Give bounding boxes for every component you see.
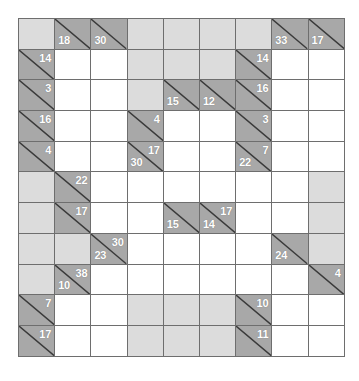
entry-cell[interactable] (55, 142, 91, 173)
blank-cell (164, 326, 200, 357)
entry-cell[interactable] (200, 111, 236, 142)
entry-cell[interactable] (309, 111, 345, 142)
entry-cell[interactable] (164, 265, 200, 296)
entry-cell[interactable] (55, 80, 91, 111)
across-clue-number: 22 (76, 175, 88, 186)
across-clue-number: 17 (39, 329, 51, 340)
clue-cell: 4 (19, 142, 55, 173)
entry-cell[interactable] (236, 234, 272, 265)
entry-cell[interactable] (128, 265, 164, 296)
blank-cell (19, 234, 55, 265)
across-clue-number: 10 (256, 298, 268, 309)
across-clue-number: 17 (148, 145, 160, 156)
entry-cell[interactable] (91, 295, 127, 326)
down-clue-number: 12 (203, 96, 215, 107)
across-clue-number: 16 (256, 83, 268, 94)
across-clue-number: 11 (257, 329, 268, 340)
entry-cell[interactable] (128, 203, 164, 234)
across-clue-number: 14 (39, 53, 51, 64)
clue-cell: 16 (236, 80, 272, 111)
clue-cell: 12 (200, 80, 236, 111)
entry-cell[interactable] (309, 326, 345, 357)
entry-cell[interactable] (236, 172, 272, 203)
across-clue-number: 4 (154, 114, 160, 125)
entry-cell[interactable] (91, 203, 127, 234)
entry-cell[interactable] (164, 142, 200, 173)
entry-cell[interactable] (200, 142, 236, 173)
entry-cell[interactable] (91, 265, 127, 296)
down-clue-number: 22 (239, 157, 251, 168)
entry-cell[interactable] (55, 50, 91, 81)
across-clue-number: 14 (256, 53, 268, 64)
clue-cell: 3810 (55, 265, 91, 296)
entry-cell[interactable] (91, 142, 127, 173)
entry-cell[interactable] (272, 142, 308, 173)
blank-cell (19, 203, 55, 234)
entry-cell[interactable] (164, 234, 200, 265)
entry-cell[interactable] (91, 326, 127, 357)
clue-cell: 3 (19, 80, 55, 111)
kakuro-grid[interactable]: 1830331714143151216164341730722221715171… (18, 18, 345, 357)
entry-cell[interactable] (55, 295, 91, 326)
entry-cell[interactable] (164, 111, 200, 142)
entry-cell[interactable] (91, 172, 127, 203)
blank-cell (200, 19, 236, 50)
blank-cell (309, 172, 345, 203)
blank-cell (55, 234, 91, 265)
entry-cell[interactable] (236, 203, 272, 234)
clue-cell: 7 (19, 295, 55, 326)
down-clue-number: 10 (58, 280, 70, 291)
entry-cell[interactable] (272, 172, 308, 203)
entry-cell[interactable] (91, 111, 127, 142)
clue-cell: 4 (309, 265, 345, 296)
entry-cell[interactable] (309, 142, 345, 173)
blank-cell (128, 50, 164, 81)
entry-cell[interactable] (272, 111, 308, 142)
entry-cell[interactable] (55, 326, 91, 357)
clue-cell: 22 (55, 172, 91, 203)
entry-cell[interactable] (200, 172, 236, 203)
across-clue-number: 3 (262, 114, 268, 125)
down-clue-number: 15 (167, 219, 179, 230)
entry-cell[interactable] (272, 326, 308, 357)
blank-cell (19, 172, 55, 203)
entry-cell[interactable] (272, 295, 308, 326)
entry-cell[interactable] (164, 172, 200, 203)
clue-cell: 30 (91, 19, 127, 50)
clue-cell: 15 (164, 80, 200, 111)
entry-cell[interactable] (200, 265, 236, 296)
clue-cell: 3 (236, 111, 272, 142)
clue-cell: 17 (19, 326, 55, 357)
blank-cell (200, 295, 236, 326)
entry-cell[interactable] (272, 80, 308, 111)
down-clue-number: 33 (275, 35, 287, 46)
entry-cell[interactable] (309, 80, 345, 111)
down-clue-number: 30 (94, 35, 106, 46)
entry-cell[interactable] (128, 172, 164, 203)
entry-cell[interactable] (200, 234, 236, 265)
clue-cell: 14 (236, 50, 272, 81)
entry-cell[interactable] (309, 295, 345, 326)
entry-cell[interactable] (272, 265, 308, 296)
entry-cell[interactable] (55, 111, 91, 142)
entry-cell[interactable] (91, 80, 127, 111)
clue-cell: 1714 (200, 203, 236, 234)
blank-cell (164, 295, 200, 326)
entry-cell[interactable] (236, 265, 272, 296)
entry-cell[interactable] (309, 50, 345, 81)
entry-cell[interactable] (272, 50, 308, 81)
kakuro-puzzle: 1830331714143151216164341730722221715171… (0, 0, 359, 381)
across-clue-number: 4 (45, 145, 51, 156)
entry-cell[interactable] (91, 50, 127, 81)
clue-cell: 14 (19, 50, 55, 81)
clue-cell: 722 (236, 142, 272, 173)
across-clue-number: 16 (39, 114, 51, 125)
entry-cell[interactable] (128, 234, 164, 265)
down-clue-number: 24 (275, 250, 287, 261)
blank-cell (128, 80, 164, 111)
across-clue-number: 4 (335, 268, 341, 279)
clue-cell: 24 (272, 234, 308, 265)
blank-cell (309, 234, 345, 265)
across-clue-number: 7 (45, 298, 51, 309)
entry-cell[interactable] (272, 203, 308, 234)
